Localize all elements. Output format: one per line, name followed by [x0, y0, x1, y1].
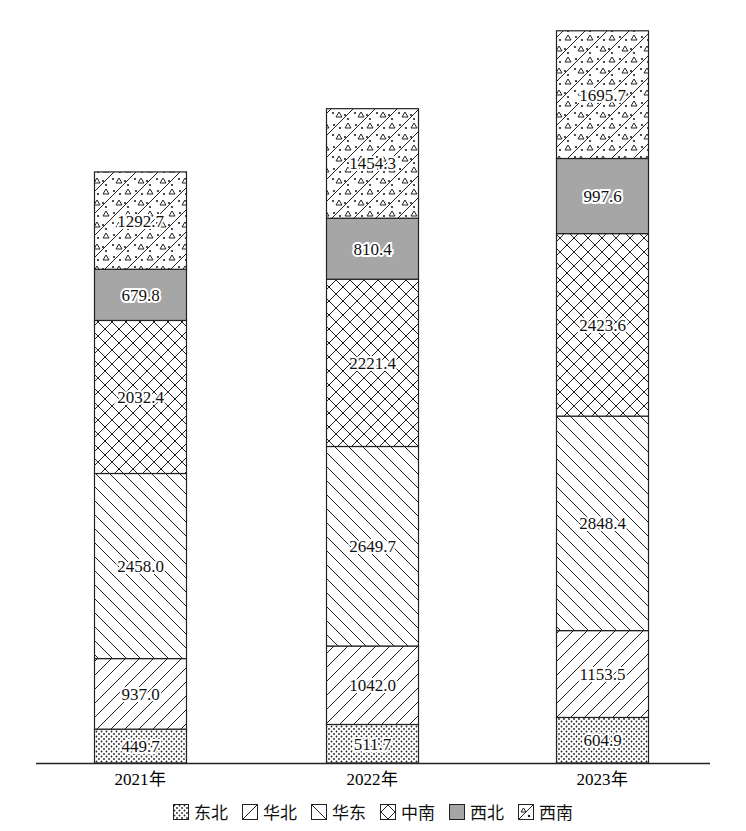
x-tick-label: 2022年	[347, 770, 398, 789]
data-label: 1042.0	[349, 676, 396, 695]
legend-swatch-forward-diagonal-icon	[242, 804, 258, 820]
legend-item-huadong: 华东	[311, 799, 366, 824]
data-label: 2423.6	[579, 316, 626, 335]
data-label: 1153.5	[579, 665, 625, 684]
x-tick-label: 2021年	[115, 770, 166, 789]
legend-label: 华东	[332, 799, 366, 824]
data-label: 997.6	[583, 187, 621, 206]
legend-swatch-dots-icon	[173, 804, 189, 820]
legend-label: 西南	[539, 799, 573, 824]
x-tick-label: 2023年	[577, 770, 628, 789]
data-label: 1292.7	[117, 212, 164, 231]
data-label: 810.4	[353, 240, 392, 259]
bar-stack: 449.7937.02458.02032.4679.81292.7	[95, 172, 187, 763]
data-label: 1454.3	[349, 154, 396, 173]
legend-item-dongbei: 东北	[173, 799, 228, 824]
data-label: 2649.7	[349, 537, 396, 556]
data-label: 2458.0	[117, 557, 164, 576]
data-label: 449.7	[121, 737, 160, 756]
legend-label: 东北	[194, 799, 228, 824]
data-label: 1695.7	[579, 86, 626, 105]
legend-swatch-back-diagonal-icon	[311, 804, 327, 820]
data-label: 604.9	[583, 731, 621, 750]
legend-swatch-crosshatch-icon	[380, 804, 396, 820]
data-label: 2848.4	[579, 514, 626, 533]
legend: 东北 华北 华东 中南 西北 西南	[0, 799, 746, 824]
data-label: 2221.4	[349, 354, 396, 373]
legend-label: 华北	[263, 799, 297, 824]
stacked-bar-chart: 449.7937.02458.02032.4679.81292.7511.710…	[0, 0, 746, 831]
legend-item-huabei: 华北	[242, 799, 297, 824]
data-label: 2032.4	[117, 388, 164, 407]
data-label: 511.7	[354, 735, 392, 754]
legend-label: 西北	[470, 799, 504, 824]
bar-stack: 604.91153.52848.42423.6997.61695.7	[557, 31, 649, 763]
legend-swatch-gray-icon	[449, 804, 465, 820]
legend-swatch-triangle-dots-icon	[518, 804, 534, 820]
legend-label: 中南	[401, 799, 435, 824]
bar-stack: 511.71042.02649.72221.4810.41454.3	[327, 109, 419, 763]
legend-item-xinan: 西南	[518, 799, 573, 824]
data-label: 937.0	[121, 685, 159, 704]
data-label: 679.8	[121, 286, 159, 305]
legend-item-xibei: 西北	[449, 799, 504, 824]
legend-item-zhongnan: 中南	[380, 799, 435, 824]
